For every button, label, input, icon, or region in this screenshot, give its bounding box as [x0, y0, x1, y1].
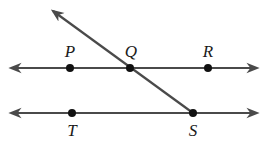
points-layer [66, 64, 212, 117]
labels-layer: PQRTS [64, 42, 214, 140]
point-label-q: Q [125, 42, 137, 61]
point-label-p: P [64, 42, 75, 61]
point-label-r: R [202, 42, 214, 61]
point-r [204, 64, 212, 72]
point-s [189, 109, 197, 117]
point-t [68, 109, 76, 117]
point-label-s: S [189, 121, 198, 140]
parallel-lines-transversal-diagram: PQRTS [0, 0, 269, 149]
transversal-ray [53, 11, 193, 113]
point-label-t: T [67, 121, 78, 140]
lines-layer [11, 11, 257, 113]
point-q [126, 64, 134, 72]
point-p [66, 64, 74, 72]
